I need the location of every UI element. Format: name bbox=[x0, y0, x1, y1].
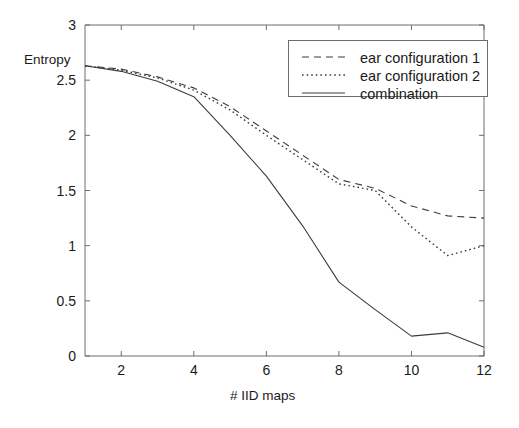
legend: ear configuration 1ear configuration 2co… bbox=[289, 41, 488, 102]
x-tick-label: 4 bbox=[190, 362, 198, 378]
legend-label-1: ear configuration 1 bbox=[360, 50, 480, 66]
y-tick-label: 1 bbox=[68, 238, 76, 254]
legend-label-2: ear configuration 2 bbox=[360, 68, 480, 84]
y-axis-title: Entropy bbox=[24, 52, 71, 67]
legend-label-3: combination bbox=[360, 86, 438, 102]
y-tick-label: 0.5 bbox=[57, 293, 77, 309]
x-tick-label: 8 bbox=[335, 362, 343, 378]
y-tick-label: 3 bbox=[68, 17, 76, 33]
entropy-line-chart: 00.511.522.53 24681012 Entropy # IID map… bbox=[0, 0, 519, 428]
y-tick-label: 1.5 bbox=[57, 183, 77, 199]
series-line-3 bbox=[85, 66, 484, 347]
x-tick-label: 2 bbox=[117, 362, 125, 378]
y-tick-label: 0 bbox=[68, 348, 76, 364]
y-tick-label: 2 bbox=[68, 127, 76, 143]
series-group bbox=[85, 66, 484, 347]
x-tick-label: 12 bbox=[476, 362, 492, 378]
figure-canvas: 00.511.522.53 24681012 Entropy # IID map… bbox=[0, 0, 519, 428]
x-axis-title: # IID maps bbox=[230, 388, 296, 403]
x-tick-label: 10 bbox=[404, 362, 420, 378]
y-tick-label: 2.5 bbox=[57, 72, 77, 88]
x-tick-label: 6 bbox=[262, 362, 270, 378]
